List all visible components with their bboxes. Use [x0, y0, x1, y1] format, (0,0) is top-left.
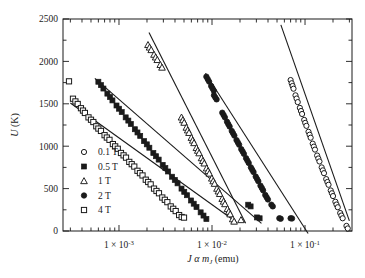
- marker-filled-square: [110, 98, 115, 103]
- y-axis-label-unit: (K): [9, 113, 21, 129]
- marker-filled-square: [184, 193, 189, 198]
- marker-open-circle: [330, 193, 335, 198]
- marker-filled-square: [204, 216, 209, 221]
- y-tick-label: 500: [44, 184, 59, 194]
- y-tick-label: 1500: [39, 99, 58, 109]
- marker-open-square: [66, 79, 71, 84]
- marker-filled-square: [156, 157, 161, 162]
- marker-filled-circle: [214, 97, 219, 102]
- marker-open-circle: [317, 159, 322, 164]
- marker-open-circle: [340, 216, 345, 221]
- marker-open-circle: [335, 205, 340, 210]
- legend-label: 1 T: [98, 176, 111, 186]
- marker-filled-square: [101, 86, 106, 91]
- marker-open-circle: [308, 135, 313, 140]
- marker-open-circle: [299, 111, 304, 116]
- x-axis-label: J α mJ (emu): [187, 253, 238, 265]
- marker-filled-square: [119, 110, 124, 115]
- marker-filled-square: [257, 216, 262, 221]
- marker-open-circle: [321, 171, 326, 176]
- marker-filled-square: [82, 164, 87, 169]
- legend-label: 0.5 T: [98, 162, 118, 172]
- marker-filled-circle: [278, 216, 283, 221]
- marker-filled-square: [175, 181, 180, 186]
- marker-open-circle: [291, 86, 296, 91]
- y-tick-label: 1000: [39, 142, 58, 152]
- marker-filled-square: [248, 204, 253, 209]
- marker-open-circle: [345, 226, 350, 231]
- figure-container: 1 × 10-31 × 10-21 × 10-1 050010001500200…: [0, 0, 365, 278]
- marker-open-square: [81, 207, 86, 212]
- y-tick-label: 2000: [39, 57, 58, 67]
- marker-filled-square: [128, 121, 133, 126]
- marker-filled-circle: [265, 197, 270, 202]
- scatter-plot: 1 × 10-31 × 10-21 × 10-1 050010001500200…: [0, 0, 365, 278]
- marker-filled-circle: [81, 193, 86, 198]
- marker-open-circle: [295, 100, 300, 105]
- marker-open-circle: [304, 123, 309, 128]
- marker-open-square: [181, 215, 186, 220]
- y-tick-label: 0: [53, 226, 58, 236]
- marker-open-circle: [81, 149, 86, 154]
- marker-filled-circle: [270, 204, 275, 209]
- legend-label: 0.1 T: [98, 147, 118, 157]
- x-axis-label-m: m: [202, 253, 209, 264]
- legend-label: 4 T: [98, 205, 111, 215]
- y-tick-label: 2500: [39, 14, 58, 24]
- legend-label: 2 T: [98, 191, 111, 201]
- marker-open-circle: [326, 182, 331, 187]
- marker-open-circle: [312, 147, 317, 152]
- marker-filled-square: [194, 205, 199, 210]
- y-axis-label: U (K): [9, 113, 21, 137]
- marker-filled-square: [147, 145, 152, 150]
- marker-filled-square: [166, 169, 171, 174]
- marker-filled-circle: [289, 216, 294, 221]
- marker-filled-square: [138, 133, 143, 138]
